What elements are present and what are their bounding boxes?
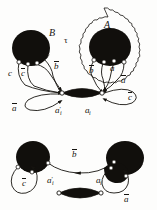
figure-root: B A τ c c b a a′i ai b a a c b c a a′i — [0, 0, 157, 210]
edge-label-b-bar-bottom: b — [72, 150, 77, 159]
edge-label-c: c — [8, 69, 12, 78]
region-label-tau: τ — [64, 36, 68, 45]
edge-label-c-bar-right: c — [128, 93, 132, 102]
edge-label-a-bar-bottom: a — [124, 195, 129, 204]
region-label-A: A — [104, 20, 110, 30]
edge-label-c-bar-bottom: c — [22, 179, 26, 188]
node-label-a-i-prime: a′i — [55, 106, 62, 116]
edge-label-b-bar-right: b — [89, 66, 94, 75]
region-label-B: B — [49, 28, 55, 38]
node-label-a-i-bottom: ai — [96, 176, 102, 186]
node-label-a-i: ai — [85, 106, 91, 116]
edge-label-a-bar-right: a — [121, 76, 126, 85]
subscript-i: i — [52, 180, 54, 186]
edge-b-bar-bottom — [48, 162, 114, 175]
edge-label-c-bar-left: c — [21, 69, 25, 78]
subscript-i: i — [60, 110, 62, 116]
lens-band-bottom — [59, 188, 101, 198]
edge-label-a-bar-left: a — [12, 104, 17, 113]
edge-label-a-bar-mid: a — [110, 64, 115, 73]
lens-band-top — [62, 89, 102, 98]
node-label-a-i-prime-bottom: a′i — [47, 176, 54, 186]
edge-label-b-bar: b — [54, 62, 59, 71]
